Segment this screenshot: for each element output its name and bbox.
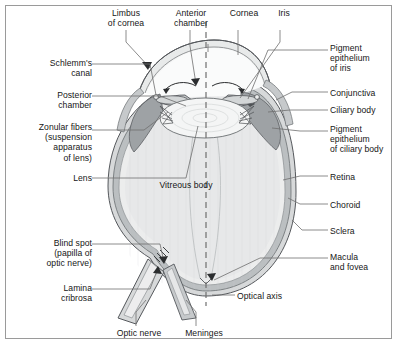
label-pigment-epithelium-of-ciliary-body: Pigment epithelium of ciliary body [330, 124, 399, 155]
label-meninges: Meninges [176, 328, 232, 338]
label-anterior-chamber: Anterior chamber [163, 8, 219, 28]
schlemms-canal [154, 95, 159, 100]
lens [160, 98, 250, 138]
label-iris: Iris [270, 8, 298, 18]
label-lens: Lens [48, 173, 92, 183]
label-posterior-chamber: Posterior chamber [14, 90, 92, 110]
label-choroid: Choroid [330, 200, 390, 210]
label-retina: Retina [330, 172, 390, 182]
label-limbus-of-cornea: Limbus of cornea [98, 8, 154, 28]
label-optic-nerve: Optic nerve [108, 328, 170, 338]
label-macula-and-fovea: Macula and fovea [330, 252, 394, 272]
label-zonular-fibers: Zonular fibers (suspension apparatus of … [6, 122, 92, 163]
label-sclera: Sclera [330, 226, 390, 236]
label-optical-axis: Optical axis [237, 291, 303, 301]
label-vitreous-body: Vitreous body [148, 180, 224, 190]
schlemms-canal-right [255, 95, 260, 100]
label-ciliary-body: Ciliary body [330, 105, 398, 115]
label-blind-spot: Blind spot (papilla of optic nerve) [14, 238, 92, 269]
label-conjunctiva: Conjunctiva [330, 88, 398, 98]
label-pigment-epithelium-of-iris: Pigment epithelium of iris [330, 43, 398, 74]
label-cornea: Cornea [222, 8, 266, 18]
label-schlemms-canal: Schlemm's canal [14, 58, 92, 78]
eye-anatomy-figure: Schlemm's canal Posterior chamber Zonula… [0, 0, 399, 349]
label-lamina-cribrosa: Lamina cribrosa [14, 283, 92, 303]
